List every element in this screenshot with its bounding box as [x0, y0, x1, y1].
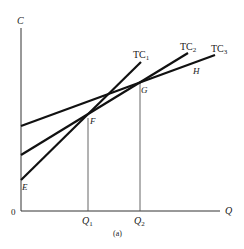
tc3-label: TC3 — [211, 43, 228, 56]
point-g-label: G — [141, 85, 148, 95]
x-axis-label: Q — [225, 205, 233, 216]
tc1-label: TC1 — [133, 49, 150, 62]
origin-label: 0 — [11, 207, 16, 217]
q2-tick-label: Q2 — [134, 215, 145, 228]
point-h-label: H — [192, 66, 200, 76]
q1-tick-label: Q1 — [82, 215, 93, 228]
cost-curves-diagram: C Q 0 TC1 TC2 TC3 E F G H Q1 Q2 (a) — [0, 0, 244, 249]
figure-caption: (a) — [113, 229, 122, 238]
point-f-label: F — [89, 116, 96, 126]
tc2-curve — [21, 53, 188, 155]
y-axis-label: C — [17, 15, 24, 26]
point-e-label: E — [21, 182, 28, 192]
tc2-label: TC2 — [180, 41, 197, 54]
tc1-curve — [21, 62, 141, 180]
tc3-curve — [21, 55, 215, 126]
